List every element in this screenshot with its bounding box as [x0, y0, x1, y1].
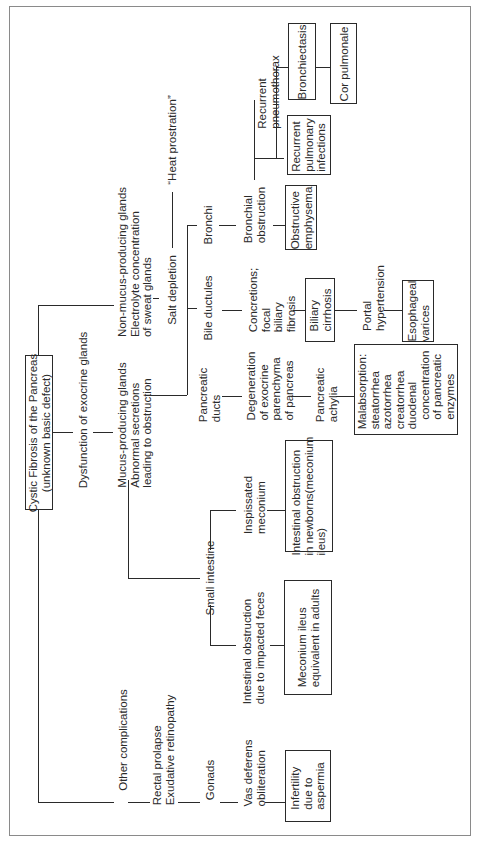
connector	[210, 645, 236, 646]
connector	[128, 578, 200, 579]
connector	[265, 802, 285, 803]
connector	[276, 67, 288, 68]
pancreatic-achylia-label: Pancreatic achylia	[314, 368, 339, 422]
connector	[153, 298, 159, 299]
connector	[128, 802, 150, 803]
bronchi-label: Bronchi	[202, 206, 215, 245]
connector	[222, 396, 242, 397]
concretions-label: Concretions; focal biliary fibrosis	[247, 268, 297, 333]
connector	[335, 310, 357, 311]
connector	[93, 432, 113, 433]
connector	[38, 802, 114, 803]
recurrent-pulmonary-infections-box: Recurrent pulmonary infections	[287, 115, 331, 175]
esophageal-varices-box: Esophageal varices	[402, 280, 434, 342]
connector	[178, 802, 200, 803]
connector	[220, 802, 238, 803]
gonads-label: Gonads	[204, 760, 217, 800]
root-label: Cystic Fibrosis of the Pancreas (unknown…	[27, 353, 52, 512]
connector	[384, 310, 402, 311]
recurrent-pulmonary-infections-label: Recurrent pulmonary infections	[290, 118, 328, 172]
connector	[316, 67, 330, 68]
connector	[254, 158, 284, 159]
diagram-canvas: Cystic Fibrosis of the Pancreas (unknown…	[0, 0, 479, 850]
intestinal-obstruction-newborns-label: Intestinal obstruction in newborns(mecon…	[290, 437, 328, 556]
dysfunction-label: Dysfunction of exocrine glands	[77, 332, 90, 489]
connector	[222, 310, 242, 311]
connector	[276, 67, 277, 158]
connector	[270, 645, 284, 646]
connector	[210, 605, 211, 645]
cor-pulmonale-box: Cor pulmonale	[330, 23, 357, 104]
connector	[38, 510, 39, 802]
degeneration-label: Degeneration of exocrine parenchyma of p…	[245, 351, 295, 420]
connector	[187, 225, 197, 226]
vas-deferens-label: Vas deferens obliteration	[242, 740, 267, 807]
connector	[291, 396, 311, 397]
connector	[293, 310, 305, 311]
intestinal-obstruction-feces-label: Intestinal obstruction due to impacted f…	[241, 592, 266, 705]
connector	[267, 510, 285, 511]
connector	[150, 395, 187, 396]
obstructive-emphysema-label: Obstructive emphysema	[289, 186, 314, 249]
salt-depletion-label: Salt depletion	[166, 255, 179, 325]
root-box: Cystic Fibrosis of the Pancreas (unknown…	[25, 355, 53, 510]
meconium-ileus-adults-box: Meconium ileus equivalent in adults	[284, 580, 332, 695]
connector	[336, 396, 354, 397]
connector	[38, 305, 114, 306]
connector	[187, 308, 197, 309]
connector	[187, 308, 188, 395]
infertility-box: Infertility due to aspermia	[285, 750, 331, 822]
malabsorption-label: Malabsorption: steatorrhea azotorrhea cr…	[356, 350, 456, 429]
connector	[273, 225, 285, 226]
inspissated-meconium-label: Inspissated meconium	[242, 476, 267, 534]
mucus-label: Mucus-producing glands Abnormal secretio…	[116, 362, 154, 487]
bronchial-obstruction-label: Bronchial obstruction	[242, 187, 267, 243]
non-mucus-label: Non-mucus-producing glands Electrolyte c…	[116, 187, 154, 337]
biliary-cirrhosis-box: Biliary cirrhosis	[305, 278, 335, 342]
connector	[210, 510, 211, 550]
connector	[172, 192, 173, 248]
connector	[53, 432, 73, 433]
esophageal-varices-label: Esophageal varices	[406, 281, 431, 342]
bile-ductules-label: Bile ductules	[202, 275, 215, 340]
pancreatic-ducts-label: Pancreatic ducts	[197, 368, 222, 422]
meconium-ileus-adults-label: Meconium ileus equivalent in adults	[296, 588, 321, 686]
connector	[38, 305, 39, 355]
other-complications-label: Other complications	[117, 689, 130, 791]
connector	[254, 158, 255, 180]
cor-pulmonale-label: Cor pulmonale	[337, 26, 350, 101]
connector	[219, 225, 236, 226]
obstructive-emphysema-box: Obstructive emphysema	[285, 185, 317, 250]
portal-hypertension-label: Portal hypertension	[361, 265, 386, 331]
biliary-cirrhosis-label: Biliary cirrhosis	[308, 289, 333, 332]
connector	[187, 225, 188, 308]
bronchiectasis-box: Bronchiectasis	[288, 23, 316, 100]
infertility-label: Infertility due to aspermia	[289, 762, 327, 809]
malabsorption-box: Malabsorption: steatorrhea azotorrhea cr…	[354, 344, 458, 435]
heat-prostration-label: “Heat prostration”	[166, 95, 179, 184]
intestinal-obstruction-newborns-box: Intestinal obstruction in newborns(mecon…	[285, 440, 333, 552]
connector	[210, 510, 236, 511]
rectal-prolapse-label: Rectal prolapse Exudative retinopathy	[151, 695, 176, 806]
bronchiectasis-label: Bronchiectasis	[296, 24, 309, 99]
connector	[128, 480, 129, 578]
